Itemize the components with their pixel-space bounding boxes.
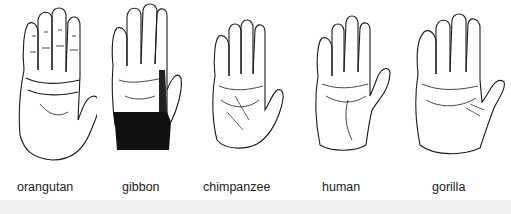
- chimpanzee-hand-illustration: [205, 0, 290, 165]
- orangutan-hand-illustration: [12, 0, 97, 165]
- label-human: human: [322, 180, 360, 194]
- label-orangutan: orangutan: [17, 180, 73, 194]
- label-gorilla: gorilla: [432, 180, 465, 194]
- label-chimpanzee: chimpanzee: [203, 180, 270, 194]
- gibbon-hand-illustration: [105, 0, 185, 165]
- label-gibbon: gibbon: [122, 180, 160, 194]
- gorilla-hand-illustration: [410, 0, 505, 165]
- bottom-strip: [0, 200, 511, 214]
- primate-hands-figure: orangutan gibbon chimpanzee human gorill…: [0, 0, 511, 214]
- human-hand-illustration: [308, 0, 393, 165]
